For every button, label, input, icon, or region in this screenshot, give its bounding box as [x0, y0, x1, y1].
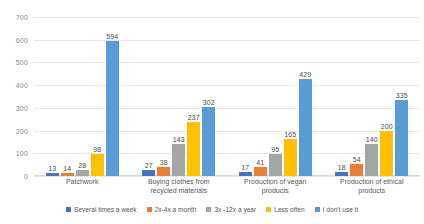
- bar-value-label: 41: [256, 159, 264, 166]
- legend-item-label: 3x -12x a year: [214, 206, 256, 213]
- bar-value-label: 200: [381, 123, 393, 130]
- y-axis-tick-label: 400: [0, 82, 28, 89]
- x-axis-category-label: Production of veganproducts: [227, 178, 324, 202]
- bar[interactable]: [142, 170, 155, 176]
- grid-line: [34, 176, 420, 177]
- y-axis-tick-label: 300: [0, 104, 28, 111]
- bar-value-label: 28: [78, 162, 86, 169]
- bar-slot: 335: [395, 17, 408, 176]
- bar[interactable]: [106, 41, 119, 176]
- y-axis-tick-label: 200: [0, 127, 28, 134]
- bar-slot: 594: [106, 17, 119, 176]
- legend-item[interactable]: Several times a week: [66, 206, 137, 213]
- bar[interactable]: [395, 100, 408, 176]
- bar-value-label: 594: [106, 33, 118, 40]
- x-axis-category-label: Production of ethicalproducts: [324, 178, 421, 202]
- bar-slot: 140: [365, 17, 378, 176]
- bar-slot: 98: [91, 17, 104, 176]
- bar-slot: 28: [76, 17, 89, 176]
- bar-chart: 0100200300400500600700 13142898594273814…: [0, 0, 424, 224]
- bar[interactable]: [46, 173, 59, 176]
- chart-legend: Several times a week2x-4x a month3x -12x…: [0, 206, 424, 213]
- bar-slot: 38: [157, 17, 170, 176]
- legend-swatch-icon: [206, 207, 211, 212]
- bar-group: 13142898594: [34, 17, 131, 176]
- bar[interactable]: [76, 170, 89, 176]
- bar-slot: 18: [335, 17, 348, 176]
- y-axis-tick-label: 100: [0, 150, 28, 157]
- bar-slot: 165: [284, 17, 297, 176]
- legend-item[interactable]: 2x-4x a month: [147, 206, 197, 213]
- bar-slot: 27: [142, 17, 155, 176]
- legend-swatch-icon: [315, 207, 320, 212]
- bar[interactable]: [239, 172, 252, 176]
- bar[interactable]: [299, 79, 312, 176]
- legend-item-label: 2x-4x a month: [155, 206, 197, 213]
- bar-slot: 200: [380, 17, 393, 176]
- bar-slot: 17: [239, 17, 252, 176]
- bar[interactable]: [172, 144, 185, 176]
- y-axis-tick-label: 500: [0, 59, 28, 66]
- legend-item-label: Less often: [274, 206, 304, 213]
- bar-slot: 302: [202, 17, 215, 176]
- bar[interactable]: [380, 131, 393, 176]
- bar-value-label: 95: [271, 146, 279, 153]
- legend-swatch-icon: [66, 207, 71, 212]
- plot-area: 1314289859427381432373021741951654291854…: [34, 17, 420, 176]
- x-axis-labels: PatchworkBuying clothes fromrecycled mat…: [34, 178, 420, 202]
- bar-group: 1854140200335: [324, 17, 421, 176]
- bar-value-label: 302: [203, 99, 215, 106]
- bar[interactable]: [254, 167, 267, 176]
- bar[interactable]: [350, 164, 363, 176]
- legend-item[interactable]: 3x -12x a year: [206, 206, 256, 213]
- bar[interactable]: [61, 173, 74, 176]
- bar-value-label: 165: [284, 131, 296, 138]
- bar-value-label: 13: [48, 165, 56, 172]
- bar-value-label: 54: [353, 156, 361, 163]
- bar-value-label: 429: [299, 71, 311, 78]
- x-axis-category-label: Patchwork: [34, 178, 131, 202]
- bar-group: 174195165429: [227, 17, 324, 176]
- bar-value-label: 335: [396, 92, 408, 99]
- bar[interactable]: [157, 167, 170, 176]
- bar[interactable]: [269, 154, 282, 176]
- bar-slot: 13: [46, 17, 59, 176]
- bar[interactable]: [365, 144, 378, 176]
- bar[interactable]: [187, 122, 200, 176]
- bar-slot: 41: [254, 17, 267, 176]
- bar-value-label: 98: [93, 146, 101, 153]
- legend-item-label: I don't use it: [323, 206, 358, 213]
- bar-value-label: 140: [366, 136, 378, 143]
- bar-group: 2738143237302: [131, 17, 228, 176]
- bar-value-label: 38: [160, 159, 168, 166]
- legend-swatch-icon: [147, 207, 152, 212]
- bar[interactable]: [91, 154, 104, 176]
- bar-value-label: 237: [188, 114, 200, 121]
- legend-swatch-icon: [266, 207, 271, 212]
- y-axis-tick-label: 0: [0, 173, 28, 180]
- bar-slot: 429: [299, 17, 312, 176]
- bar-value-label: 18: [338, 164, 346, 171]
- bar-slot: 54: [350, 17, 363, 176]
- bar[interactable]: [335, 172, 348, 176]
- x-axis-category-label: Buying clothes fromrecycled materials: [131, 178, 228, 202]
- bar-value-label: 143: [173, 136, 185, 143]
- y-axis-tick-label: 700: [0, 14, 28, 21]
- legend-item[interactable]: I don't use it: [315, 206, 358, 213]
- bar-value-label: 17: [241, 164, 249, 171]
- bar-slot: 237: [187, 17, 200, 176]
- legend-item-label: Several times a week: [74, 206, 137, 213]
- bar-groups: 1314289859427381432373021741951654291854…: [34, 17, 420, 176]
- y-axis-tick-label: 600: [0, 36, 28, 43]
- bar[interactable]: [202, 107, 215, 176]
- y-axis: 0100200300400500600700: [0, 0, 32, 224]
- bar-slot: 14: [61, 17, 74, 176]
- bar-slot: 95: [269, 17, 282, 176]
- bar-slot: 143: [172, 17, 185, 176]
- bar-value-label: 27: [145, 162, 153, 169]
- legend-item[interactable]: Less often: [266, 206, 304, 213]
- bar[interactable]: [284, 139, 297, 176]
- bar-value-label: 14: [63, 165, 71, 172]
